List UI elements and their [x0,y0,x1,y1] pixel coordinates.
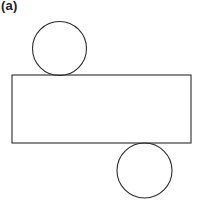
top-circle [33,22,87,76]
bottom-circle [117,143,172,198]
lateral-surface-rectangle [12,75,191,143]
cylinder-net-diagram [0,0,201,207]
